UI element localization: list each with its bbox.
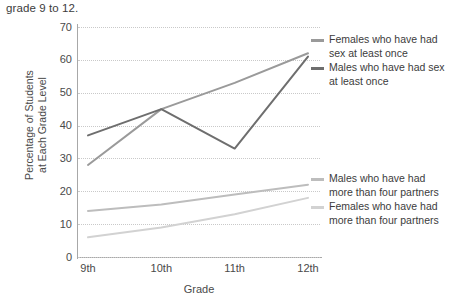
series-line-0 xyxy=(88,53,308,165)
y-tick-label: 10 xyxy=(26,219,72,230)
legend-item-females-sex-once: Females who have had sex at least once xyxy=(311,33,451,60)
legend-item-females-four-partners: Females who have had more than four part… xyxy=(311,200,451,227)
x-tick-label: 9th xyxy=(65,263,111,274)
y-axis-title-line-2: at Each Grade Level xyxy=(36,45,49,205)
legend-label: Females who have had sex at least once xyxy=(329,33,451,60)
y-tick-label: 70 xyxy=(26,22,72,33)
y-axis-title: Percentage of Students at Each Grade Lev… xyxy=(23,45,49,205)
x-axis-title: Grade xyxy=(78,283,320,295)
legend-label: Males who have had more than four partne… xyxy=(329,172,451,199)
x-tick-label: 10th xyxy=(138,263,184,274)
line-chart: 010203040506070 9th10th11th12th Grade Pe… xyxy=(0,0,451,305)
legend-swatch-icon xyxy=(311,206,324,209)
legend-swatch-icon xyxy=(311,39,324,42)
legend-item-males-four-partners: Males who have had more than four partne… xyxy=(311,172,451,199)
x-tick-label: 12th xyxy=(285,263,331,274)
gridline xyxy=(78,257,320,258)
legend-label: Females who have had more than four part… xyxy=(329,200,451,227)
legend-swatch-icon xyxy=(311,178,324,181)
legend-item-males-sex-once: Males who have had sex at least once xyxy=(311,61,451,88)
x-tick-label: 11th xyxy=(212,263,258,274)
series-line-3 xyxy=(88,198,308,237)
y-axis-title-line-1: Percentage of Students xyxy=(23,45,36,205)
plot-area xyxy=(78,27,320,257)
legend-label: Males who have had sex at least once xyxy=(329,61,451,88)
legend-swatch-icon xyxy=(311,67,324,70)
y-tick-label: 0 xyxy=(26,252,72,263)
series-line-1 xyxy=(88,57,308,149)
series-line-2 xyxy=(88,185,308,211)
series-lines xyxy=(78,27,320,257)
